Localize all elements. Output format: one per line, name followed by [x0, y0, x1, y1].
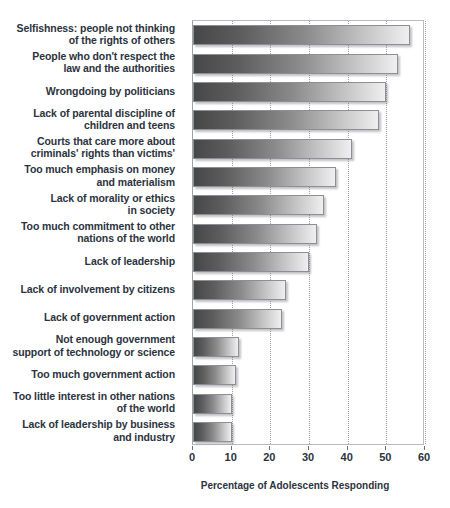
x-tick-mark	[347, 446, 348, 450]
bar	[193, 110, 379, 130]
category-label: Lack of leadership	[0, 255, 175, 268]
bar	[193, 82, 386, 102]
bar-chart: Selfishness: people not thinking of the …	[0, 0, 450, 508]
x-tick-label: 40	[332, 451, 362, 463]
x-tick-mark	[192, 446, 193, 450]
category-label: Lack of involvement by citizens	[0, 283, 175, 296]
category-label: Too little interest in other nations of …	[0, 390, 175, 415]
x-tick-label: 50	[370, 451, 400, 463]
x-tick-mark	[424, 446, 425, 450]
category-label-column: Selfishness: people not thinking of the …	[0, 20, 183, 445]
category-label: Lack of morality or ethics in society	[0, 192, 175, 217]
plot-area	[192, 20, 424, 445]
category-label: People who don't respect the law and the…	[0, 50, 175, 75]
gridline-50	[386, 21, 388, 444]
x-tick-label: 30	[293, 451, 323, 463]
x-tick-mark	[385, 446, 386, 450]
category-label: Courts that care more about criminals' r…	[0, 135, 175, 160]
bar	[193, 139, 352, 159]
category-label: Too much commitment to other nations of …	[0, 220, 175, 245]
x-tick-mark	[269, 446, 270, 450]
x-axis: 0102030405060	[192, 446, 424, 468]
category-label: Too much emphasis on money and materiali…	[0, 163, 175, 188]
category-label: Not enough government support of technol…	[0, 333, 175, 358]
category-label: Too much government action	[0, 368, 175, 381]
bar	[193, 167, 336, 187]
bar	[193, 25, 410, 45]
category-label: Lack of parental discipline of children …	[0, 107, 175, 132]
category-label: Lack of government action	[0, 311, 175, 324]
bar	[193, 365, 236, 385]
x-tick-label: 0	[177, 451, 207, 463]
x-axis-title: Percentage of Adolescents Responding	[150, 480, 440, 491]
x-tick-label: 20	[254, 451, 284, 463]
category-label: Wrongdoing by politicians	[0, 85, 175, 98]
x-tick-mark	[308, 446, 309, 450]
gridline-60	[425, 21, 427, 444]
x-tick-mark	[231, 446, 232, 450]
x-tick-label: 10	[216, 451, 246, 463]
bar	[193, 195, 324, 215]
bar	[193, 54, 398, 74]
bar	[193, 394, 232, 414]
category-label: Lack of leadership by business and indus…	[0, 418, 175, 443]
bar	[193, 422, 232, 442]
bar	[193, 224, 317, 244]
bar	[193, 309, 282, 329]
bar	[193, 337, 239, 357]
bar	[193, 252, 309, 272]
x-tick-label: 60	[409, 451, 439, 463]
bar	[193, 280, 286, 300]
category-label: Selfishness: people not thinking of the …	[0, 22, 175, 47]
